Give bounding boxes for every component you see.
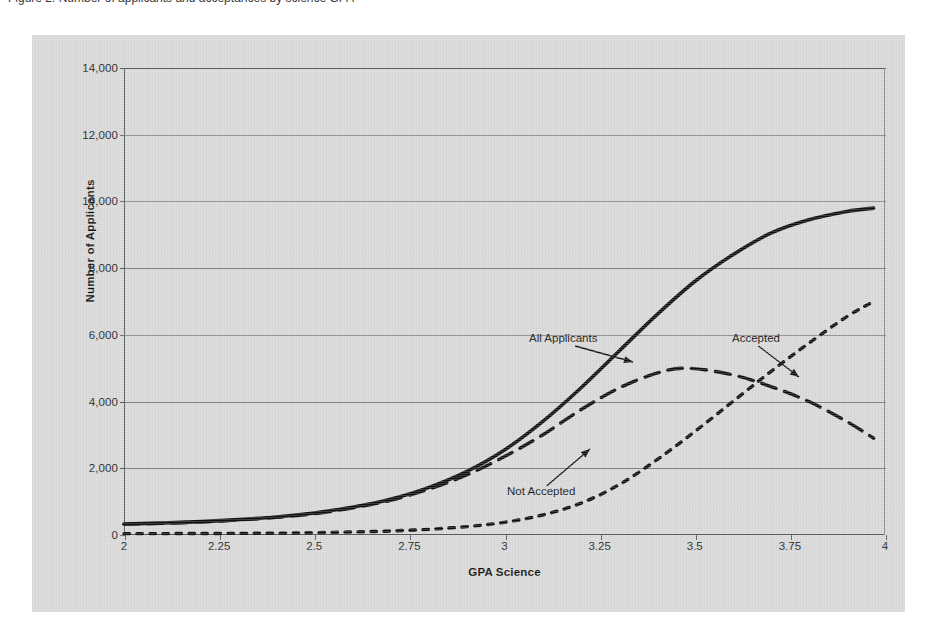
x-tick-label: 2 — [94, 540, 154, 552]
x-axis-title: GPA Science — [124, 566, 885, 578]
y-tick-label: 14,000 — [48, 62, 118, 74]
series-all-applicants — [124, 208, 874, 524]
y-tick-label: 6,000 — [48, 329, 118, 341]
y-tick-label: 12,000 — [48, 129, 118, 141]
x-tick-label: 2.25 — [189, 540, 249, 552]
top-caption-strip: Figure 2. Number of applicants and accep… — [0, 0, 931, 11]
series-annotation-label: All Applicants — [529, 332, 597, 344]
x-tick-label: 2.5 — [284, 540, 344, 552]
series-annotation-label: Not Accepted — [507, 485, 575, 497]
y-tick-label: 4,000 — [48, 396, 118, 408]
figure-caption: Figure 2. Number of applicants and accep… — [8, 0, 354, 5]
y-tick-label: 10,000 — [48, 195, 118, 207]
x-tick-label: 3.25 — [570, 540, 630, 552]
x-tick-label: 4 — [855, 540, 915, 552]
series-annotation-label: Accepted — [732, 332, 780, 344]
x-tick-label: 3 — [475, 540, 535, 552]
x-tick-label: 3.75 — [760, 540, 820, 552]
y-tick-label: 2,000 — [48, 462, 118, 474]
x-axis-tick-labels: 22.252.52.7533.253.53.754 — [124, 540, 885, 562]
y-axis-title: Number of Applicants — [84, 141, 96, 341]
x-tick-label: 2.75 — [379, 540, 439, 552]
series-not-accepted — [124, 368, 874, 524]
chart-panel: 02,0004,0006,0008,00010,00012,00014,000 … — [32, 35, 905, 612]
series-layer — [124, 68, 885, 535]
y-tick-label: 8,000 — [48, 262, 118, 274]
y-axis-tick-labels: 02,0004,0006,0008,00010,00012,00014,000 — [42, 68, 118, 535]
x-tick-label: 3.5 — [665, 540, 725, 552]
